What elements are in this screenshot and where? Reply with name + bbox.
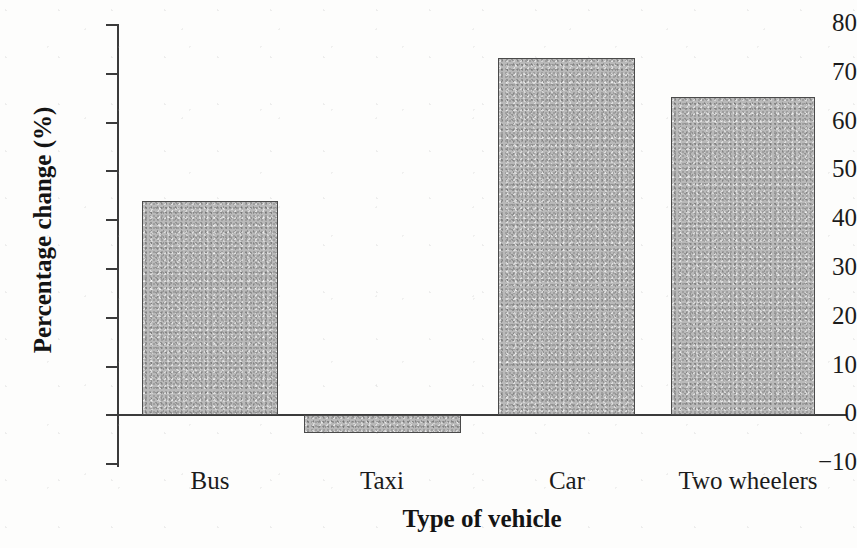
- y-tick-label-80: 80: [797, 10, 857, 35]
- chart-figure: 80 70 60 50 40 30 20 10 0 −10 Bus Taxi C…: [0, 0, 857, 548]
- y-tick-40: [106, 219, 118, 221]
- y-tick-80: [106, 24, 118, 26]
- bar-bus[interactable]: [142, 201, 278, 415]
- bar-two-wheelers[interactable]: [671, 97, 815, 415]
- x-tick-label-car: Car: [497, 468, 637, 493]
- y-tick-10: [106, 366, 118, 368]
- x-tick-label-bus: Bus: [140, 468, 280, 493]
- y-axis-title: Percentage change (%): [29, 20, 57, 440]
- y-axis-line: [117, 24, 119, 467]
- x-tick-label-two-wheelers: Two wheelers: [648, 468, 848, 493]
- y-tick-label-70: 70: [797, 59, 857, 84]
- x-axis-title: Type of vehicle: [117, 505, 847, 533]
- y-tick-minus-10: [106, 463, 118, 465]
- y-tick-70: [106, 73, 118, 75]
- plot-area: 80 70 60 50 40 30 20 10 0 −10 Bus Taxi C…: [0, 0, 857, 548]
- x-tick-label-taxi: Taxi: [312, 468, 452, 493]
- bar-taxi[interactable]: [304, 415, 461, 433]
- y-tick-20: [106, 317, 118, 319]
- y-tick-50: [106, 170, 118, 172]
- y-tick-60: [106, 122, 118, 124]
- y-tick-30: [106, 268, 118, 270]
- y-tick-0: [106, 414, 118, 416]
- bar-car[interactable]: [498, 58, 635, 415]
